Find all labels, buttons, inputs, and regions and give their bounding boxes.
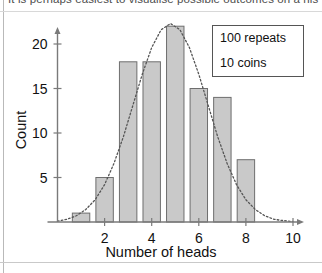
legend-box: 100 repeats 10 coins bbox=[212, 25, 304, 77]
caption-text: It is perhaps easiest to visualise possi… bbox=[8, 0, 318, 5]
page-canvas: It is perhaps easiest to visualise possi… bbox=[0, 0, 322, 273]
legend-line-coins: 10 coins bbox=[220, 57, 303, 70]
x-axis-title: Number of heads bbox=[105, 244, 216, 260]
caption-clip: It is perhaps easiest to visualise possi… bbox=[8, 0, 322, 9]
x-tick-label-10: 10 bbox=[285, 230, 301, 246]
y-tick-label-15: 15 bbox=[20, 81, 48, 97]
bar-5 bbox=[167, 26, 184, 222]
y-axis-title: Count bbox=[13, 111, 29, 150]
bar-3 bbox=[119, 62, 136, 222]
histogram-chart: 5101520 246810 Number of heads Count 100… bbox=[0, 12, 322, 262]
y-tick-label-5: 5 bbox=[20, 170, 48, 186]
page-bottom-rule bbox=[0, 262, 322, 263]
y-axis-arrow-icon bbox=[55, 27, 61, 34]
bar-4 bbox=[143, 62, 160, 222]
legend-line-repeats: 100 repeats bbox=[220, 32, 303, 45]
bar-1 bbox=[72, 213, 89, 222]
bar-7 bbox=[214, 97, 231, 222]
x-tick-label-8: 8 bbox=[242, 230, 250, 246]
x-axis-arrow-icon bbox=[297, 219, 304, 225]
bar-6 bbox=[190, 89, 207, 223]
y-tick-label-20: 20 bbox=[20, 36, 48, 52]
